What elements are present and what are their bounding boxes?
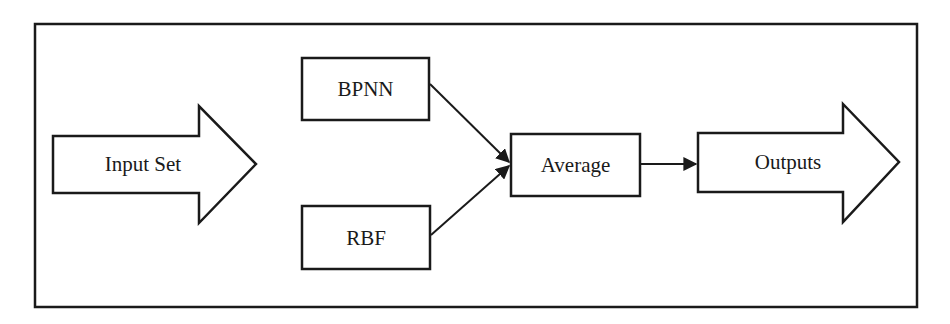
input-set-label: Input Set (105, 152, 182, 176)
outputs-node: Outputs (698, 104, 899, 222)
rbf-node: RBF (302, 206, 430, 269)
rbf-label: RBF (346, 226, 386, 250)
ensemble-diagram: Input Set BPNN RBF Average Outputs (0, 0, 950, 324)
average-label: Average (541, 153, 611, 177)
arrow-bpnn-to-average (430, 84, 509, 162)
average-node: Average (511, 134, 640, 196)
bpnn-label: BPNN (337, 77, 393, 101)
bpnn-node: BPNN (302, 58, 429, 120)
input-set-node: Input Set (53, 106, 256, 223)
arrow-rbf-to-average (431, 166, 509, 235)
outputs-label: Outputs (755, 150, 822, 174)
